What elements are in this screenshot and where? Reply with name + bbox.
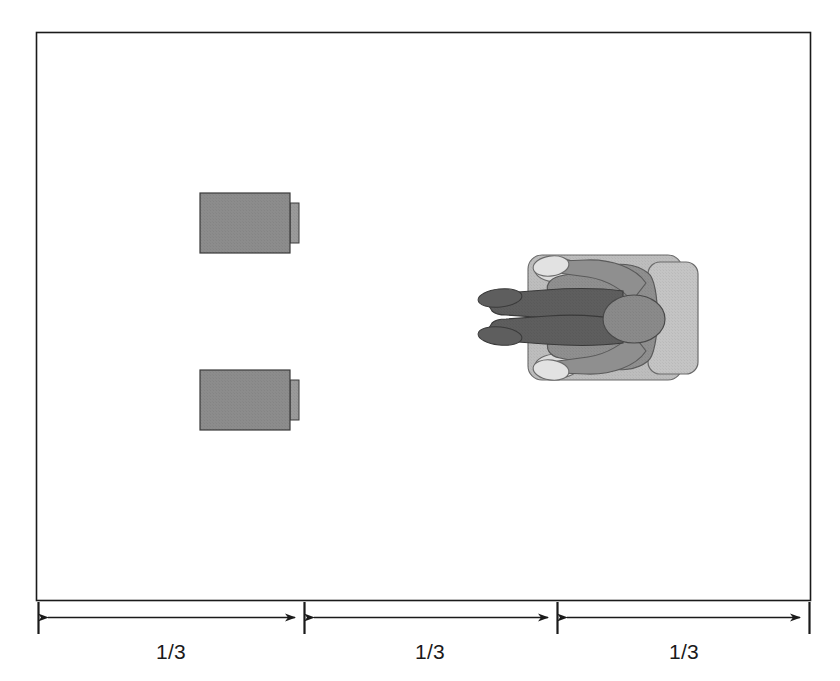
equipment-unit-bottom-tab-texture [290, 380, 299, 420]
dimension-segment-middle: 1/3 [314, 618, 548, 664]
plan-diagram-svg: 1/3 1/3 1/3 [0, 0, 840, 681]
equipment-unit-top[interactable] [200, 193, 299, 253]
head-texture [603, 295, 665, 343]
dimension-label-left: 1/3 [156, 640, 186, 663]
equipment-unit-top-body-texture [200, 193, 290, 253]
dimension-label-middle: 1/3 [415, 640, 445, 663]
dimension-segment-left: 1/3 [48, 618, 295, 664]
equipment-unit-top-tab-texture [290, 203, 299, 243]
dimension-segment-right: 1/3 [567, 618, 800, 664]
equipment-unit-bottom[interactable] [200, 370, 299, 430]
equipment-unit-bottom-body-texture [200, 370, 290, 430]
figure-root: 1/3 1/3 1/3 [0, 0, 840, 681]
dimension-label-right: 1/3 [669, 640, 699, 663]
dimension-scale: 1/3 1/3 1/3 [39, 602, 810, 663]
